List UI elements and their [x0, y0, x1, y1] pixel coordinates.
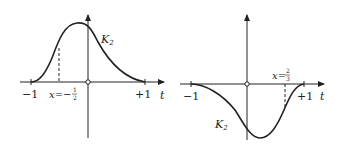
left-origin-circle — [86, 80, 90, 84]
left-curve-label: K2 — [100, 33, 114, 47]
figure: K2 −1 +1 t x=− 1 2 K2 −1 +1 t x= 2 3 — [0, 0, 345, 151]
right-curve-label: K2 — [214, 118, 228, 132]
right-origin-circle — [245, 82, 249, 86]
left-axis-label-t: t — [160, 89, 165, 102]
right-tick-label-plus-one: +1 — [297, 90, 313, 103]
right-tick-label-minus-one: −1 — [183, 90, 199, 103]
right-marker-denominator: 3 — [286, 75, 290, 82]
left-marker-label: x=− — [49, 89, 71, 100]
left-marker-denominator: 2 — [73, 94, 77, 101]
left-marker-numerator: 1 — [73, 86, 77, 93]
right-marker-numerator: 2 — [286, 67, 290, 74]
right-marker-label: x= — [272, 70, 286, 81]
right-panel: K2 −1 +1 t x= 2 3 — [180, 15, 325, 140]
left-tick-label-plus-one: +1 — [135, 88, 151, 101]
right-axis-label-t: t — [320, 90, 325, 103]
left-panel: K2 −1 +1 t x=− 1 2 — [20, 15, 165, 138]
kernel-plots: K2 −1 +1 t x=− 1 2 K2 −1 +1 t x= 2 3 — [0, 0, 345, 151]
left-tick-label-minus-one: −1 — [22, 88, 38, 101]
